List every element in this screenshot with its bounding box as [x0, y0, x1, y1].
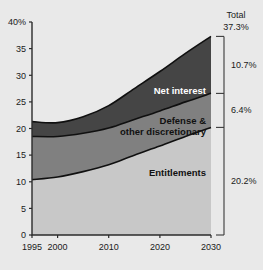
y-tick-label: 15 [16, 150, 26, 160]
total-value: 37.3% [223, 22, 249, 32]
x-tick-label: 2020 [150, 242, 170, 252]
y-tick-label: 5 [21, 204, 26, 214]
label-defense-other-discretionary: Defense & [160, 115, 207, 126]
x-tick-label: 2010 [99, 242, 119, 252]
y-tick-label: 20 [16, 124, 26, 134]
label-defense-other-discretionary: other discretionary [120, 126, 207, 137]
label-net-interest: Net interest [154, 85, 207, 96]
y-tick-label: 40% [8, 17, 26, 27]
segment-value-net-interest: 10.7% [231, 60, 257, 70]
x-tick-label: 1995 [22, 242, 42, 252]
y-tick-label: 30 [16, 71, 26, 81]
stacked-area-chart: 0510152025303540% 19952000201020202030 N… [0, 0, 263, 270]
y-tick-label: 35 [16, 44, 26, 54]
segment-value-entitlements: 20.2% [231, 176, 257, 186]
y-tick-label: 10 [16, 177, 26, 187]
y-tick-label: 0 [21, 230, 26, 240]
segment-value-defense-other-discretionary: 6.4% [231, 105, 252, 115]
y-tick-label: 25 [16, 97, 26, 107]
total-caption: Total [226, 10, 245, 20]
chart-container: 0510152025303540% 19952000201020202030 N… [0, 0, 263, 270]
x-tick-label: 2000 [48, 242, 68, 252]
label-entitlements: Entitlements [149, 167, 206, 178]
x-tick-label: 2030 [201, 242, 221, 252]
